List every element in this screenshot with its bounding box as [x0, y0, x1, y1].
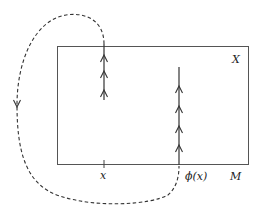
- label-point-x: x: [100, 169, 107, 182]
- label-point-phi-x: ϕ(x): [185, 170, 207, 183]
- label-base-m: M: [229, 170, 242, 183]
- dashed-path: [17, 14, 179, 203]
- label-region-x: X: [231, 53, 241, 66]
- region-x-rectangle: [58, 47, 249, 165]
- diagram-canvas: X M x ϕ(x): [0, 0, 258, 219]
